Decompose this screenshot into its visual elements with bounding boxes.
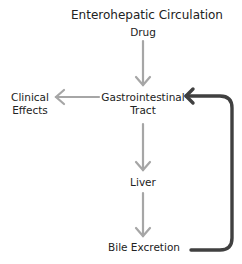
arrow-gi-to-liver [136,124,150,170]
arrow-bile-to-gi-return [186,89,232,250]
arrow-drug-to-gi [136,41,150,85]
diagram-arrows [0,0,242,264]
arrow-gi-to-clinical [56,90,99,104]
arrow-liver-to-bile [136,193,150,236]
